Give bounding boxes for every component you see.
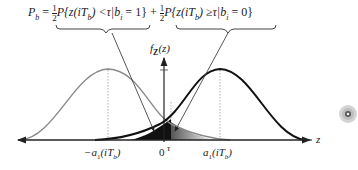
formula: Pb = 12P{z(iTb) <τ|bi = 1} + 12P{z(iTb) … (28, 4, 253, 23)
brace-left (56, 25, 150, 33)
x-axis-label: z (316, 133, 320, 145)
tick-tau: τ (167, 143, 170, 153)
gaussian-diagram (0, 0, 358, 170)
tick-left-mean: −a1(iTb) (84, 146, 120, 161)
disc-icon (339, 105, 357, 123)
right-gaussian-curve (95, 69, 305, 140)
y-axis-label: fZ(z) (150, 42, 170, 57)
tick-right-mean: a1(iTb) (203, 146, 232, 161)
tick-zero: 0 (159, 146, 165, 158)
pointer-arrow-left (112, 33, 154, 131)
brace-right (176, 25, 276, 33)
